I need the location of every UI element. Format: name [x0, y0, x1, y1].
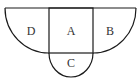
- label-b: B: [106, 24, 114, 38]
- label-a: A: [67, 24, 76, 38]
- label-d: D: [27, 24, 36, 38]
- geometry-diagram: D A B C: [0, 0, 139, 78]
- label-c: C: [67, 56, 75, 70]
- region-b-arc: [93, 8, 136, 53]
